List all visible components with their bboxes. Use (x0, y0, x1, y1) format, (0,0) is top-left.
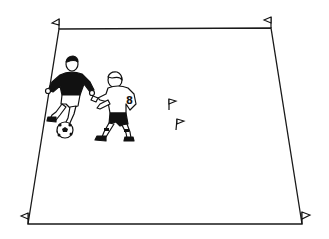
corner-flag-bottom-left-icon (21, 213, 28, 224)
drill-diagram: 8 (0, 0, 329, 239)
corner-flag-bottom-right-icon (302, 212, 310, 224)
field-svg: 8 (0, 0, 329, 239)
soccer-ball-icon (57, 122, 73, 138)
cone-flag-2-icon (176, 119, 184, 130)
cone-flag-1-icon (169, 99, 176, 110)
corner-flag-top-left-icon (52, 19, 59, 29)
jersey-number: 8 (126, 95, 133, 106)
corner-flag-top-right-icon (264, 17, 271, 28)
player-defender-figure (91, 72, 136, 141)
